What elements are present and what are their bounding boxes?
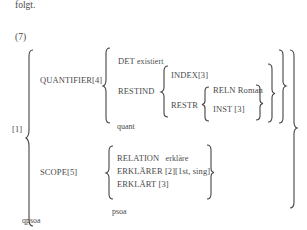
preceding-text: folgt. <box>15 0 35 11</box>
index-feature: INDEX[3] <box>171 70 208 81</box>
avm-tag: [1] <box>12 124 22 135</box>
scope-label: SCOPE[5] <box>40 167 77 178</box>
erklaerer-feature: ERKLÄRER [2][1st, sing] <box>117 166 210 177</box>
relation-label: RELATION <box>117 153 159 163</box>
restind-label: RESTIND <box>118 86 155 97</box>
example-number: (7) <box>15 32 26 43</box>
restind-right-brace-icon <box>268 64 278 123</box>
restr-label: RESTR <box>171 100 198 111</box>
restr-left-brace-icon <box>202 87 212 122</box>
outer-left-brace-icon <box>26 50 36 228</box>
restr-right-brace-icon <box>256 85 266 121</box>
reln-label: RELN <box>213 85 236 95</box>
relation-feature: RELATION erkläre <box>117 153 189 164</box>
scope-left-brace-icon <box>106 146 116 200</box>
det-value: existiert <box>137 57 164 66</box>
inst-feature: INST [3] <box>213 104 245 115</box>
quantifier-right-brace-icon <box>279 50 289 124</box>
scope-right-brace-icon <box>207 145 217 200</box>
quantifier-left-brace-icon <box>103 48 113 124</box>
outer-right-brace-icon <box>290 50 300 210</box>
det-feature: DET existiert <box>118 56 164 67</box>
erklaert-feature: ERKLÄRT [3] <box>117 179 169 190</box>
quantifier-label: QUANTIFIER[4] <box>40 75 102 86</box>
det-label: DET <box>118 56 135 66</box>
psoa-type: psoa <box>112 206 127 217</box>
relation-value: erkläre <box>166 154 189 163</box>
quant-type: quant <box>117 121 135 132</box>
restind-left-brace-icon <box>161 66 171 118</box>
qpsoa-type: qpsoa <box>22 215 41 226</box>
